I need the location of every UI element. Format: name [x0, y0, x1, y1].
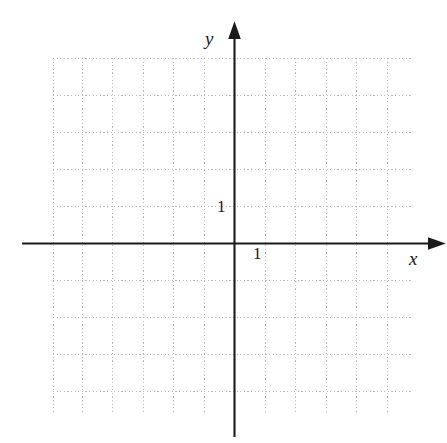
y-axis-tick-label-1: 1	[217, 198, 226, 215]
y-axis-label: y	[205, 29, 213, 48]
x-axis-tick-label-1: 1	[253, 245, 262, 262]
coordinate-plane: y x 1 1	[0, 0, 447, 443]
axes	[0, 0, 447, 443]
x-axis-label: x	[409, 249, 417, 268]
